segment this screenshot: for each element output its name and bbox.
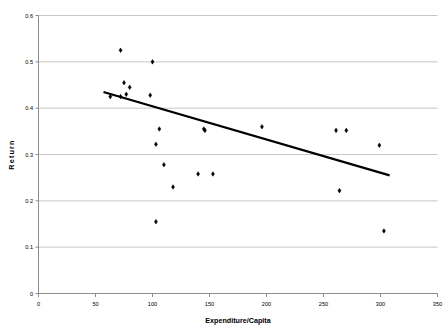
data-point xyxy=(260,124,263,129)
y-axis-ticks: 00.10.20.30.40.50.6 xyxy=(25,13,38,297)
data-point xyxy=(382,229,385,234)
data-point xyxy=(338,188,341,193)
data-point xyxy=(119,48,122,53)
data-point xyxy=(123,80,126,85)
x-tick-label: 100 xyxy=(148,301,157,307)
data-point xyxy=(211,172,214,177)
data-point xyxy=(162,162,165,167)
x-tick-label: 50 xyxy=(92,301,98,307)
x-tick-label: 300 xyxy=(376,301,385,307)
data-point xyxy=(345,128,348,133)
y-tick-label: 0.5 xyxy=(25,59,33,65)
data-point xyxy=(197,172,200,177)
data-point xyxy=(158,127,161,132)
data-point xyxy=(378,143,381,148)
data-point xyxy=(154,219,157,224)
data-points xyxy=(109,48,386,233)
y-tick-label: 0.4 xyxy=(25,105,33,111)
x-tick-label: 200 xyxy=(262,301,271,307)
y-tick-label: 0.6 xyxy=(25,13,33,19)
plot-area: 00.10.20.30.40.50.6 05010015020025030035… xyxy=(0,0,443,335)
data-point xyxy=(154,142,157,147)
y-axis-title: Return xyxy=(7,139,16,169)
x-tick-label: 250 xyxy=(319,301,328,307)
trendline-segment xyxy=(103,92,389,175)
x-axis-ticks: 050100150200250300350 xyxy=(37,294,442,307)
trendline xyxy=(103,92,389,175)
data-point xyxy=(151,60,154,65)
data-point xyxy=(125,92,128,97)
y-tick-label: 0.1 xyxy=(25,244,33,250)
x-tick-label: 350 xyxy=(433,301,442,307)
y-tick-label: 0.3 xyxy=(25,152,33,158)
y-tick-label: 0 xyxy=(30,291,33,297)
x-tick-label: 0 xyxy=(37,301,40,307)
scatter-chart: 00.10.20.30.40.50.6 05010015020025030035… xyxy=(0,0,443,335)
y-tick-label: 0.2 xyxy=(25,198,33,204)
data-point xyxy=(172,185,175,190)
data-point xyxy=(128,85,131,90)
x-axis-title: Expenditure/Capita xyxy=(205,316,272,325)
data-point xyxy=(335,128,338,133)
x-tick-label: 150 xyxy=(205,301,214,307)
data-point xyxy=(149,93,152,98)
